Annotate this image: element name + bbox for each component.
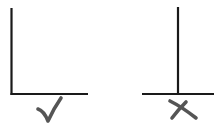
cross-icon <box>170 101 196 118</box>
figure-incorrect-t-shape <box>142 7 214 94</box>
diagram-canvas <box>0 0 220 127</box>
figure-correct-l-shape <box>11 8 89 95</box>
check-icon <box>38 98 61 121</box>
